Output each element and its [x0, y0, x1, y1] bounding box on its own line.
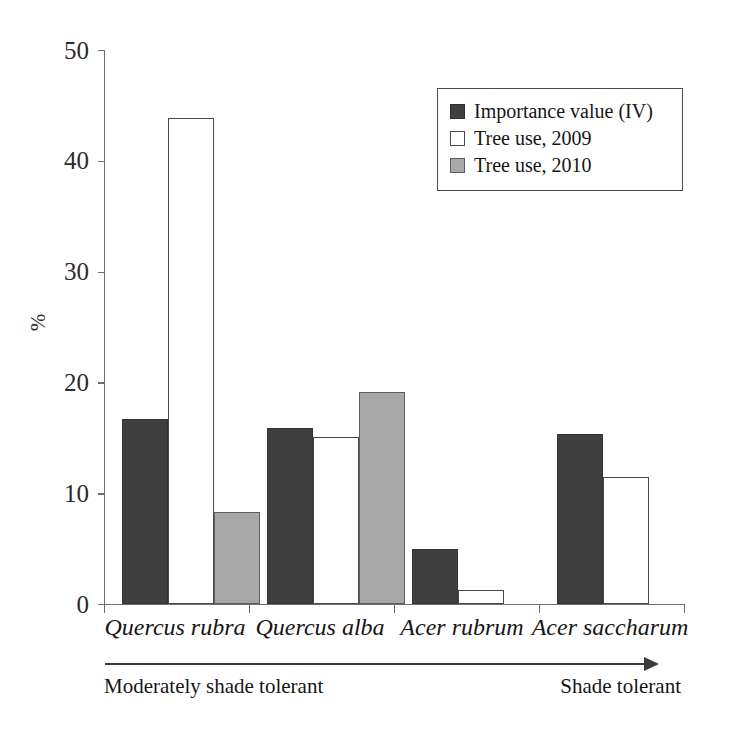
y-axis-tick-label-30: 30 — [64, 259, 89, 284]
legend-item-tree-use-2009: Tree use, 2009 — [450, 127, 672, 149]
y-axis-tick-label-10: 10 — [64, 481, 89, 506]
legend-label-tree-use-2009: Tree use, 2009 — [474, 127, 592, 149]
bar-acer-saccharum-iv — [557, 434, 603, 604]
chart-legend: Importance value (IV) Tree use, 2009 Tre… — [437, 88, 683, 191]
y-axis-tick-label-20: 20 — [64, 370, 89, 395]
bar-quercus-rubra-iv — [122, 419, 168, 604]
y-axis-tick-label-50: 50 — [64, 38, 89, 63]
bar-quercus-alba-use2009 — [313, 437, 359, 604]
x-axis-tick-0 — [104, 604, 105, 613]
bar-quercus-alba-use2010 — [359, 392, 405, 604]
empty-square-icon — [450, 131, 465, 146]
x-label-quercus-rubra: Quercus rubra — [104, 614, 245, 641]
x-axis-tick-2 — [394, 604, 395, 613]
bar-acer-rubrum-use2009 — [458, 590, 504, 604]
bar-chart-figure: 50 40 30 20 10 0 % Quercus rubra — [0, 0, 729, 731]
legend-label-importance-value: Importance value (IV) — [474, 100, 653, 122]
legend-item-importance-value: Importance value (IV) — [450, 100, 672, 122]
tolerance-label-left: Moderately shade tolerant — [104, 674, 323, 699]
bar-acer-saccharum-use2009 — [603, 477, 649, 604]
bar-quercus-rubra-use2010 — [214, 512, 260, 604]
filled-dark-square-icon — [450, 104, 465, 119]
tolerance-label-right: Shade tolerant — [560, 674, 681, 699]
bar-quercus-alba-iv — [267, 428, 313, 604]
x-label-quercus-alba: Quercus alba — [255, 614, 384, 641]
y-axis-tick-label-40: 40 — [64, 148, 89, 173]
x-label-acer-saccharum: Acer saccharum — [532, 614, 689, 641]
y-axis-title: % — [26, 314, 51, 332]
x-axis-tick-1 — [249, 604, 250, 613]
x-axis-tick-3 — [539, 604, 540, 613]
y-axis-tick-label-0: 0 — [77, 592, 90, 617]
legend-item-tree-use-2010: Tree use, 2010 — [450, 154, 672, 176]
bar-acer-rubrum-iv — [412, 549, 458, 604]
legend-label-tree-use-2010: Tree use, 2010 — [474, 154, 592, 176]
bar-quercus-rubra-use2009 — [168, 118, 214, 604]
arrow-right-icon — [105, 663, 657, 665]
x-axis-tick-4 — [684, 604, 685, 613]
x-label-acer-rubrum: Acer rubrum — [400, 614, 523, 641]
filled-gray-square-icon — [450, 158, 465, 173]
